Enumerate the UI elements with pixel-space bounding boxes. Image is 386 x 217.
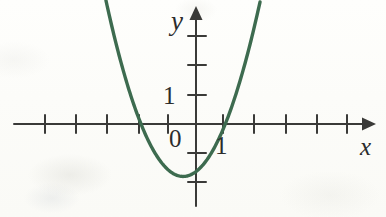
parabola-curve	[106, 1, 260, 177]
parabola-figure: y x 0 1 1	[0, 0, 386, 217]
y-axis-arrowhead	[190, 6, 203, 20]
coordinate-plot	[0, 0, 386, 217]
y-tick-label-1: 1	[163, 83, 176, 108]
x-axis-label: x	[360, 134, 371, 159]
y-axis-label: y	[171, 8, 183, 35]
x-axis-arrowhead	[362, 118, 376, 131]
parabola-path	[106, 1, 260, 177]
x-tick-label-1: 1	[215, 133, 228, 158]
origin-label: 0	[169, 126, 182, 151]
